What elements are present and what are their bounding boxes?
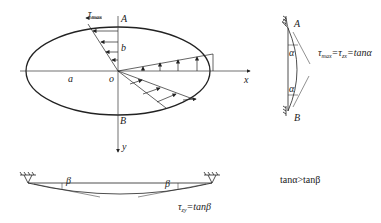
label-y-axis: y (121, 141, 127, 152)
comparison-text: tanα>tanβ (280, 174, 320, 185)
label-membrane-b: B (294, 112, 300, 123)
membrane-horizontal (20, 172, 220, 197)
label-membrane-a: A (293, 18, 301, 29)
torsion-ellipse-diagram: τmax A b a o x B y A B α α τmax=τzx=tanα (0, 0, 381, 223)
label-a-semi-axis: a (68, 73, 73, 84)
label-tau-max: τmax (88, 8, 102, 20)
label-origin: o (109, 73, 114, 84)
stress-distribution-ox (118, 54, 213, 71)
label-beta-left: β (65, 175, 71, 186)
label-alpha-lower: α (289, 83, 295, 94)
label-a-point: A (120, 13, 128, 24)
label-alpha-upper: α (289, 47, 295, 58)
equation-tau-max-alpha: τmax=τzx=tanα (318, 47, 372, 59)
label-b-semi-axis: b (121, 42, 126, 53)
stress-distribution-oa (86, 18, 118, 71)
stress-distribution-diagonal (118, 71, 196, 108)
label-beta-right: β (164, 178, 170, 189)
label-b-point: B (120, 115, 126, 126)
equation-tau-zy-beta: τzy=tanβ (178, 201, 211, 213)
membrane-vertical (282, 16, 310, 116)
label-x-axis: x (243, 74, 249, 85)
